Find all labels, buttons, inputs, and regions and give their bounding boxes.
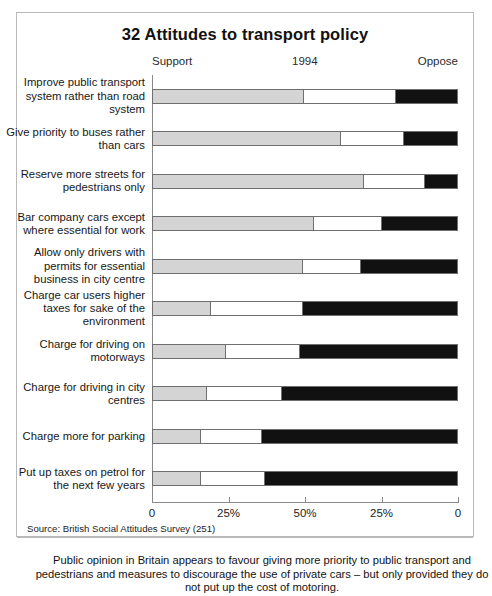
row-label: Charge more for parking <box>4 415 152 458</box>
stacked-bar <box>152 344 458 359</box>
bar-segment-neutral <box>303 90 396 103</box>
oppose-axis-label: Oppose <box>418 55 458 67</box>
bar-segment-oppose <box>262 430 457 443</box>
bar-segment-support <box>153 302 210 315</box>
bar-segment-oppose <box>382 217 457 230</box>
bar-segment-oppose <box>425 175 457 188</box>
bar-segment-oppose <box>303 302 457 315</box>
bar-segment-oppose <box>361 260 457 273</box>
row-label: Charge for driving on motorways <box>4 330 152 373</box>
row-label: Allow only drivers with permits for esse… <box>4 245 152 288</box>
bar-segment-neutral <box>210 302 303 315</box>
chart-row: Charge for driving on motorways <box>152 330 458 373</box>
bar-segment-support <box>153 472 200 485</box>
stacked-bar <box>152 216 458 231</box>
stacked-bar <box>152 471 458 486</box>
bar-segment-support <box>153 260 302 273</box>
chart-row: Charge more for parking <box>152 415 458 458</box>
chart-title: 32 Attitudes to transport policy <box>17 25 473 44</box>
axis-tick <box>305 497 306 503</box>
scale-header: Support 1994 Oppose <box>152 55 458 71</box>
stacked-bar <box>152 301 458 316</box>
divider <box>17 537 473 538</box>
chart-row: Charge for driving in city centres <box>152 373 458 416</box>
bar-segment-neutral <box>225 345 299 358</box>
bar-segment-support <box>153 90 303 103</box>
axis-tick-label: 25% <box>217 507 240 519</box>
bar-segment-oppose <box>404 132 457 145</box>
caption-text: Public opinion in Britain appears to fav… <box>34 554 490 595</box>
bar-segment-neutral <box>363 175 425 188</box>
bar-segment-support <box>153 217 313 230</box>
plot-area: Improve public transport system rather t… <box>152 75 458 500</box>
row-label: Bar company cars except where essential … <box>4 203 152 246</box>
axis-tick-label: 0 <box>455 507 461 519</box>
axis-tick <box>382 497 383 503</box>
axis-tick-label: 25% <box>370 507 393 519</box>
bar-segment-neutral <box>302 260 361 273</box>
stacked-bar <box>152 131 458 146</box>
chart-row: Put up taxes on petrol for the next few … <box>152 458 458 501</box>
bar-segment-neutral <box>340 132 404 145</box>
chart-row: Allow only drivers with permits for esse… <box>152 245 458 288</box>
row-label: Improve public transport system rather t… <box>4 75 152 118</box>
axis-tick <box>152 497 153 503</box>
bar-segment-oppose <box>282 387 457 400</box>
stacked-bar <box>152 259 458 274</box>
bar-segment-support <box>153 132 340 145</box>
chart-row: Reserve more streets for pedestrians onl… <box>152 160 458 203</box>
support-axis-label: Support <box>152 55 192 67</box>
stacked-bar <box>152 429 458 444</box>
axis-tick-label: 50% <box>293 507 316 519</box>
chart-row: Improve public transport system rather t… <box>152 75 458 118</box>
bar-segment-support <box>153 175 363 188</box>
stacked-bar <box>152 174 458 189</box>
bar-segment-support <box>153 387 206 400</box>
bar-segment-neutral <box>313 217 383 230</box>
bar-segment-support <box>153 430 200 443</box>
bar-segment-oppose <box>265 472 457 485</box>
stacked-bar <box>152 386 458 401</box>
bar-segment-support <box>153 345 225 358</box>
row-label: Put up taxes on petrol for the next few … <box>4 458 152 501</box>
row-label: Charge for driving in city centres <box>4 373 152 416</box>
row-label: Reserve more streets for pedestrians onl… <box>4 160 152 203</box>
bar-segment-neutral <box>200 472 265 485</box>
bar-segment-neutral <box>200 430 263 443</box>
axis-tick-label: 0 <box>149 507 155 519</box>
row-label: Give priority to buses rather than cars <box>4 118 152 161</box>
chart-row: Charge car users higher taxes for sake o… <box>152 288 458 331</box>
bottom-axis: 025%50%25%0 <box>152 502 458 503</box>
chart-row: Bar company cars except where essential … <box>152 203 458 246</box>
chart-row: Give priority to buses rather than cars <box>152 118 458 161</box>
chart-figure: 32 Attitudes to transport policy Support… <box>16 12 474 537</box>
bar-segment-oppose <box>300 345 457 358</box>
source-note: Source: British Social Attitudes Survey … <box>27 523 215 534</box>
row-label: Charge car users higher taxes for sake o… <box>4 288 152 331</box>
year-label: 1994 <box>292 55 318 67</box>
axis-tick <box>458 497 459 503</box>
stacked-bar <box>152 89 458 104</box>
bar-segment-neutral <box>206 387 282 400</box>
axis-tick <box>229 497 230 503</box>
bar-segment-oppose <box>396 90 457 103</box>
